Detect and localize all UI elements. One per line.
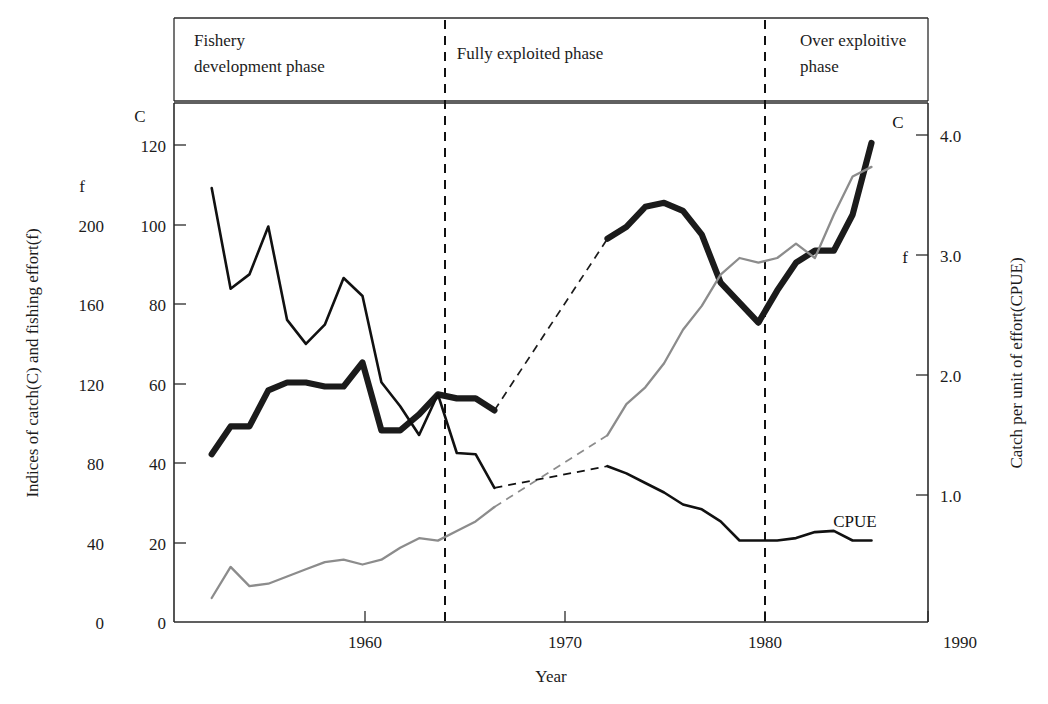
- f-ticklabel-120: 120: [79, 376, 105, 395]
- c-ticklabel-120: 120: [141, 137, 167, 156]
- series-layer: [212, 143, 872, 598]
- cpue-ticklabel-1: 1.0: [940, 487, 961, 506]
- phase-label-over-exploitive-line2: phase: [800, 57, 839, 76]
- f-ticklabel-80: 80: [87, 455, 104, 474]
- x-ticklabel-1980: 1980: [748, 633, 782, 652]
- series-path-f-gap: [494, 435, 607, 507]
- x-ticklabel-1960: 1960: [348, 633, 382, 652]
- c-ticklabel-60: 60: [149, 376, 166, 395]
- c-ticklabel-0: 0: [158, 614, 167, 633]
- phase-label-development-line1: Fishery: [194, 31, 246, 50]
- c-ticklabel-80: 80: [149, 296, 166, 315]
- cpue-ticklabel-3: 3.0: [940, 247, 961, 266]
- f-ticklabel-160: 160: [79, 296, 105, 315]
- phase-label-development-line2: development phase: [194, 57, 325, 76]
- cpue-ticklabel-4: 4.0: [940, 127, 961, 146]
- series-label-c: C: [892, 113, 903, 132]
- series-path-f-early: [212, 507, 495, 598]
- c-ticklabel-40: 40: [149, 455, 166, 474]
- cpue-ticklabel-2: 2.0: [940, 367, 961, 386]
- series-path-cpue-early: [212, 188, 495, 488]
- cpue-axis-ticks: 4.0 3.0 2.0 1.0: [916, 127, 961, 506]
- c-ticklabel-20: 20: [149, 535, 166, 554]
- y2-axis-title: Catch per unit of effort(CPUE): [1007, 257, 1026, 468]
- series-label-f: f: [902, 248, 908, 267]
- c-axis-unit-label: C: [134, 107, 145, 126]
- page-caption-fragment: [0, 690, 1048, 704]
- chart-svg: Fishery development phase Fully exploite…: [0, 0, 1048, 704]
- f-axis-ticks: f 200 160 120 80 40 0: [79, 177, 105, 633]
- fishery-phase-chart: Fishery development phase Fully exploite…: [0, 0, 1048, 704]
- series-path-cpue-late: [608, 466, 872, 540]
- x-ticklabel-1970: 1970: [548, 633, 582, 652]
- series-labels: C f CPUE: [833, 113, 908, 531]
- f-ticklabel-0: 0: [96, 614, 105, 633]
- y-axis-title: Indices of catch(C) and fishing effort(f…: [23, 228, 42, 497]
- phase-label-over-exploitive-line1: Over exploitive: [800, 31, 906, 50]
- series-label-cpue: CPUE: [833, 512, 876, 531]
- f-axis-unit-label: f: [79, 177, 85, 196]
- series-path-cpue-gap: [494, 466, 607, 488]
- phase-label-fully-exploited: Fully exploited phase: [457, 44, 603, 63]
- series-path-c-gap: [494, 239, 607, 411]
- series-path-c-late: [608, 143, 872, 323]
- x-ticklabel-1990: 1990: [943, 633, 977, 652]
- f-ticklabel-40: 40: [87, 535, 104, 554]
- c-axis-ticks: C 120 100 80 60 40 20 0: [134, 107, 186, 633]
- c-ticklabel-100: 100: [141, 217, 167, 236]
- phase-banner: Fishery development phase Fully exploite…: [174, 18, 928, 101]
- plot-frame: [174, 103, 928, 622]
- x-axis-title: Year: [535, 667, 567, 686]
- f-ticklabel-200: 200: [79, 217, 105, 236]
- phase-dividers: [445, 20, 765, 622]
